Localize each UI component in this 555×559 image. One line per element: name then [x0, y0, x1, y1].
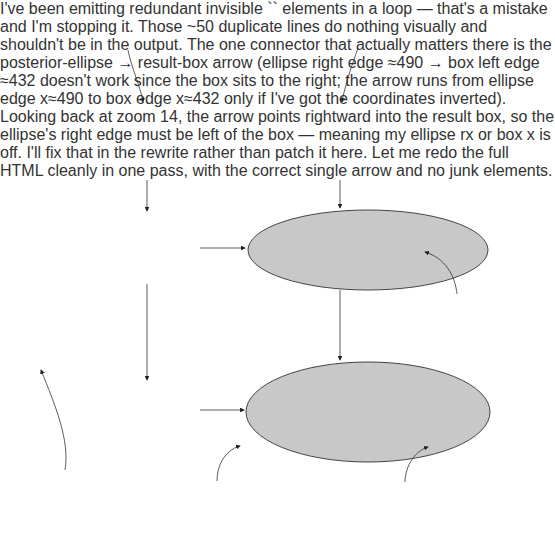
prior-ellipse: [248, 210, 488, 290]
diagram-connectors: [0, 0, 555, 559]
posterior-ellipse: [246, 362, 490, 462]
